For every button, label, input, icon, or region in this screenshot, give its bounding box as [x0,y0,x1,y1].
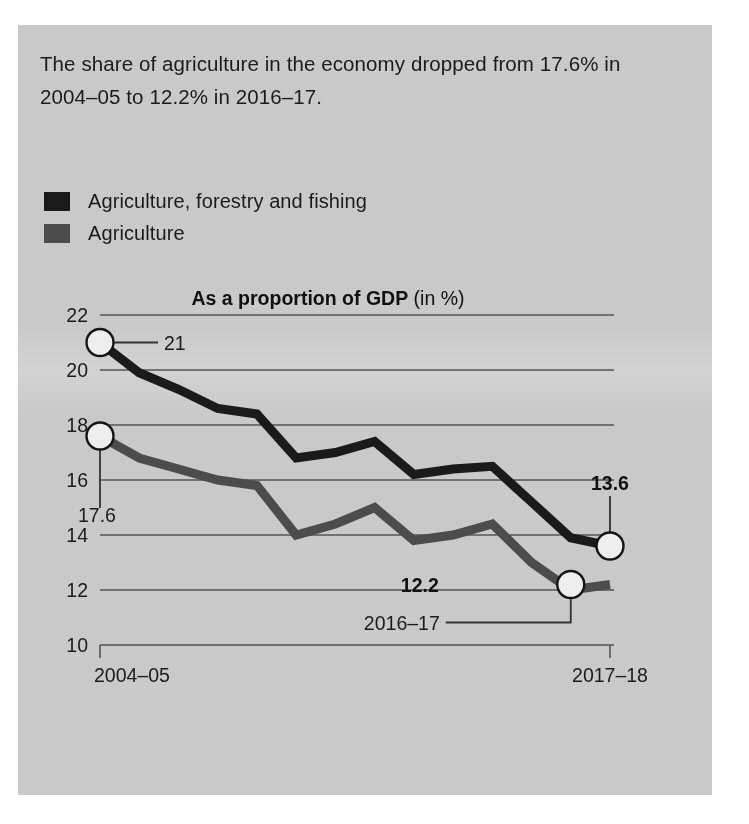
data-point-marker [557,571,584,598]
x-tick-label: 2017–18 [572,664,648,686]
data-point-label: 21 [164,332,186,354]
figure-panel: The share of agriculture in the economy … [18,25,712,795]
x-axis-tick-labels: 2004–052017–18 [94,645,648,686]
data-point-marker [87,329,114,356]
y-axis-tick-labels: 22201816141210 [66,304,88,656]
gridlines-group [100,315,614,645]
leader-line [446,598,571,623]
data-point-label: 17.6 [78,504,116,526]
data-point-marker [597,533,624,560]
x-tick-label: 2004–05 [94,664,170,686]
y-tick-label: 12 [66,579,88,601]
y-tick-label: 20 [66,359,88,381]
y-tick-label: 10 [66,634,88,656]
data-point-label: 12.2 [401,574,439,596]
chart-plot-area: 22201816141210 2004–052017–18 2117.613.6… [18,25,712,795]
y-tick-label: 16 [66,469,88,491]
data-point-label: 13.6 [591,472,629,494]
series-line [100,436,610,590]
data-point-labels: 2117.613.612.22016–17 [78,332,629,634]
data-point-label: 2016–17 [364,612,440,634]
y-tick-label: 14 [66,524,88,546]
y-tick-label: 18 [66,414,88,436]
data-series-group [100,343,610,591]
y-tick-label: 22 [66,304,88,326]
data-point-marker [87,423,114,450]
